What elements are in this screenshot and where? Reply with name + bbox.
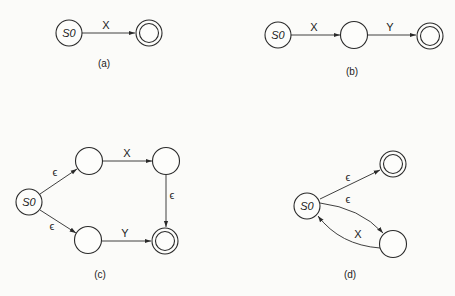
caption: (d) (344, 269, 356, 280)
edge-label: X (310, 21, 318, 33)
state-final-inner (140, 24, 159, 43)
state-top2 (153, 148, 180, 175)
edge-label: ϵ (346, 171, 351, 183)
state-s0-label: S0 (22, 196, 36, 208)
state-n1 (380, 231, 407, 258)
nfa-figure: S0 X (a) S0 X Y (b) S0 ϵ X ϵ ϵ (0, 0, 455, 296)
state-final-inner (384, 155, 403, 174)
state-final-inner (421, 27, 440, 46)
edge-label: Y (121, 227, 129, 239)
caption: (a) (98, 58, 110, 69)
edge-s0-bot1 (40, 210, 76, 233)
state-n1 (341, 22, 368, 49)
edge-label: X (354, 228, 362, 240)
edge-label: ϵ (50, 220, 55, 232)
state-s0-label: S0 (300, 200, 314, 212)
state-s0-label: S0 (62, 27, 76, 39)
diagram-a: S0 X (a) (56, 19, 162, 69)
state-final-inner (156, 232, 175, 251)
edge-label: ϵ (53, 166, 58, 178)
state-s0-label: S0 (271, 29, 285, 41)
state-bot1 (75, 227, 102, 254)
edge-label: ϵ (346, 193, 351, 205)
diagram-b: S0 X Y (b) (265, 21, 443, 77)
edge-label: Y (386, 21, 394, 33)
caption: (b) (346, 66, 358, 77)
edge-label: X (123, 147, 131, 159)
edge-n1-s0 (318, 216, 380, 248)
caption: (c) (94, 269, 106, 280)
state-top1 (76, 148, 103, 175)
diagram-c: S0 ϵ X ϵ ϵ Y (c) (16, 147, 180, 280)
edge-label: X (102, 19, 110, 31)
edge-s0-top1 (40, 169, 77, 194)
edge-label: ϵ (170, 189, 175, 201)
diagram-d: S0 ϵ ϵ X (d) (294, 151, 407, 280)
